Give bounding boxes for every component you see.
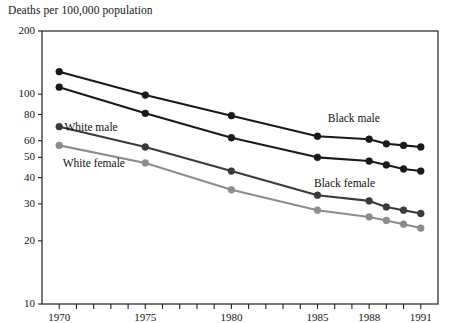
data-point-marker	[383, 204, 390, 211]
data-point-marker	[366, 198, 373, 205]
data-point-marker	[56, 84, 63, 91]
x-tick-label: 1991	[396, 311, 446, 323]
data-point-marker	[383, 140, 390, 147]
data-point-marker	[228, 112, 235, 119]
y-tick-label: 30	[24, 197, 35, 209]
data-point-marker	[400, 207, 407, 214]
y-tick-label: 50	[24, 150, 35, 162]
x-tick-label: 1985	[292, 311, 342, 323]
data-point-marker	[400, 142, 407, 149]
data-point-marker	[366, 214, 373, 221]
chart-axis-title: Deaths per 100,000 population	[8, 4, 153, 16]
y-tick-label: 100	[19, 87, 36, 99]
data-point-marker	[400, 221, 407, 228]
y-tick-label: 60	[24, 134, 35, 146]
data-point-marker	[366, 158, 373, 165]
y-tick-label: 20	[24, 234, 35, 246]
series-line	[59, 72, 421, 147]
x-tick-label: 1970	[34, 311, 84, 323]
data-point-marker	[400, 166, 407, 173]
data-point-marker	[56, 142, 63, 149]
x-tick-label: 1980	[206, 311, 256, 323]
data-point-marker	[383, 217, 390, 224]
data-point-marker	[383, 162, 390, 169]
data-point-marker	[417, 210, 424, 217]
data-point-marker	[314, 192, 321, 199]
data-point-marker	[228, 168, 235, 175]
data-point-marker	[56, 123, 63, 130]
data-point-marker	[417, 225, 424, 232]
data-point-marker	[314, 133, 321, 140]
y-tick-label: 10	[24, 297, 35, 309]
series-label-black-female: Black female	[314, 177, 375, 189]
series-label-white-male: White male	[64, 121, 117, 133]
data-point-marker	[366, 136, 373, 143]
data-point-marker	[142, 92, 149, 99]
data-point-marker	[142, 110, 149, 117]
data-point-marker	[228, 134, 235, 141]
y-tick-label: 40	[24, 171, 35, 183]
y-tick-label: 200	[19, 24, 36, 36]
series-label-white-female: White female	[63, 157, 125, 169]
x-tick-label: 1988	[344, 311, 394, 323]
x-tick-label: 1975	[120, 311, 170, 323]
data-point-marker	[417, 144, 424, 151]
data-point-marker	[142, 144, 149, 151]
data-point-marker	[56, 68, 63, 75]
series-label-black-male: Black male	[328, 112, 380, 124]
line-chart: Deaths per 100,000 population 2001008060…	[0, 0, 452, 323]
data-point-marker	[142, 160, 149, 167]
data-point-marker	[314, 207, 321, 214]
data-point-marker	[314, 154, 321, 161]
data-point-marker	[228, 186, 235, 193]
y-tick-label: 80	[24, 108, 35, 120]
data-point-marker	[417, 168, 424, 175]
